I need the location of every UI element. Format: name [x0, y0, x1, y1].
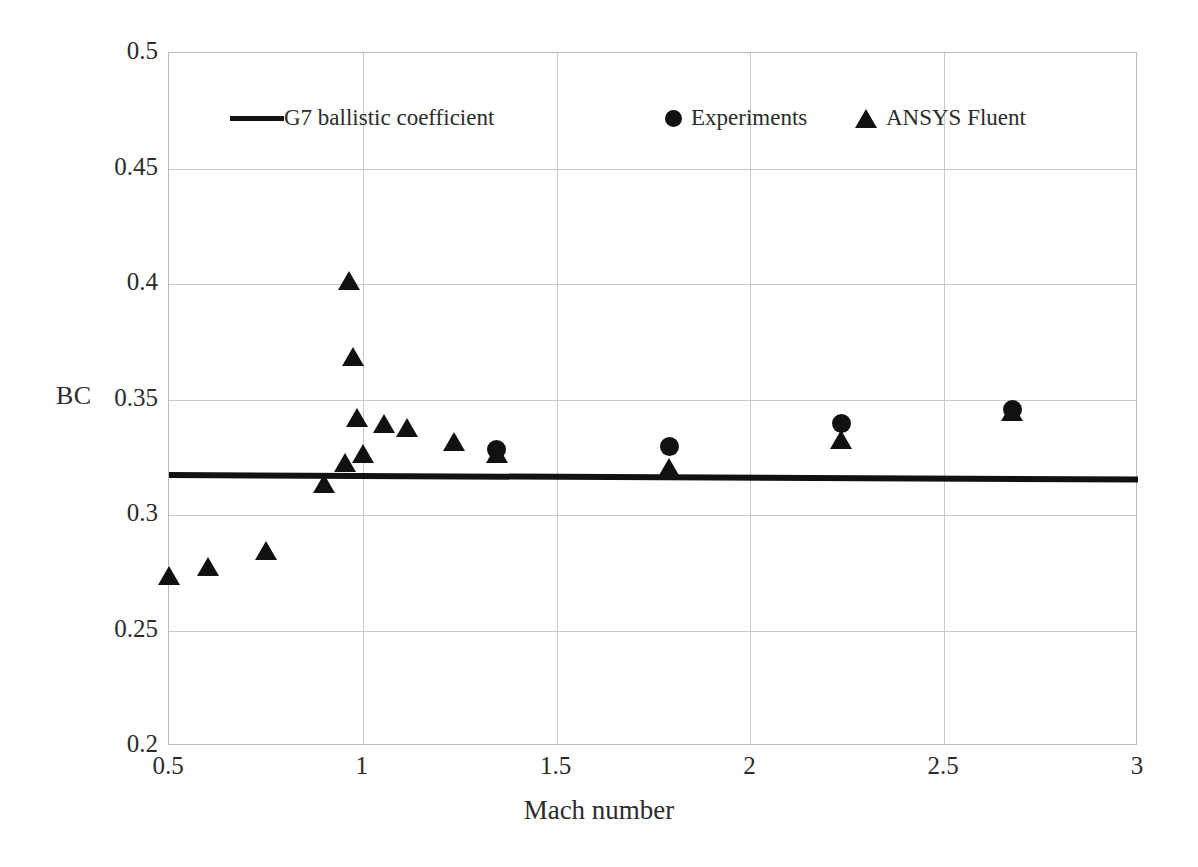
- y-axis-tick-label: 0.25: [0, 615, 158, 643]
- data-point-ansys-fluent: [1001, 402, 1023, 421]
- gridline-horizontal: [169, 515, 1136, 516]
- data-point-experiments: [660, 437, 679, 456]
- plot-area: [168, 52, 1137, 745]
- data-point-ansys-fluent: [197, 557, 219, 576]
- gridline-vertical: [750, 53, 751, 744]
- gridline-vertical: [944, 53, 945, 744]
- gridline-horizontal: [169, 169, 1136, 170]
- x-axis-tick-label: 0.5: [128, 752, 208, 780]
- y-axis-tick-label: 0.35: [0, 384, 158, 412]
- x-axis-tick-label: 1.5: [516, 752, 596, 780]
- x-axis-tick-label: 3: [1097, 752, 1177, 780]
- data-point-ansys-fluent: [443, 432, 465, 451]
- gridline-horizontal: [169, 284, 1136, 285]
- data-point-ansys-fluent: [373, 414, 395, 433]
- x-axis-tick-label: 2.5: [903, 752, 983, 780]
- data-point-ansys-fluent: [158, 566, 180, 585]
- x-axis-tick-label: 2: [709, 752, 789, 780]
- data-point-ansys-fluent: [396, 418, 418, 437]
- data-point-ansys-fluent: [830, 430, 852, 449]
- y-axis-tick-label: 0.5: [0, 37, 158, 65]
- chart-figure: BC Mach number 0.20.250.30.350.40.450.5 …: [0, 0, 1198, 867]
- x-axis-title: Mach number: [0, 795, 1198, 826]
- gridline-vertical: [363, 53, 364, 744]
- gridline-horizontal: [169, 400, 1136, 401]
- y-axis-tick-label: 0.3: [0, 499, 158, 527]
- data-point-ansys-fluent: [342, 347, 364, 366]
- data-point-ansys-fluent: [255, 541, 277, 560]
- gridline-horizontal: [169, 631, 1136, 632]
- x-axis-tick-label: 1: [322, 752, 402, 780]
- data-point-ansys-fluent: [313, 474, 335, 493]
- data-point-ansys-fluent: [352, 444, 374, 463]
- y-axis-tick-label: 0.4: [0, 268, 158, 296]
- gridline-vertical: [557, 53, 558, 744]
- data-point-ansys-fluent: [346, 408, 368, 427]
- data-point-ansys-fluent: [338, 271, 360, 290]
- data-point-ansys-fluent: [658, 458, 680, 477]
- y-axis-tick-label: 0.45: [0, 153, 158, 181]
- data-point-ansys-fluent: [486, 444, 508, 463]
